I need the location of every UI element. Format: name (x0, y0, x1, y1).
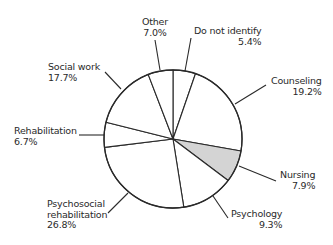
leader-psychology (213, 196, 228, 218)
pie-slices (104, 70, 242, 208)
leader-do-not-identify (185, 38, 191, 71)
leader-other (155, 40, 160, 70)
label-counseling-pct: 19.2% (271, 87, 322, 98)
label-do-not-identify-pct: 5.4% (194, 37, 261, 48)
label-counseling-name: Counseling (271, 76, 322, 87)
label-psychosocial-pct: 26.8% (47, 220, 107, 231)
label-other-name: Other (142, 17, 168, 28)
label-do-not-identify-name: Do not identify (194, 26, 261, 37)
label-social-work: Social work 17.7% (48, 62, 100, 83)
label-social-work-name: Social work (48, 62, 100, 73)
label-rehabilitation-name: Rehabilitation (14, 126, 77, 137)
label-counseling: Counseling 19.2% (271, 76, 322, 97)
label-psychosocial-rehabilitation: Psychosocial rehabilitation 26.8% (47, 199, 107, 231)
label-psychosocial-name-line1: Psychosocial (47, 199, 107, 210)
label-other: Other 7.0% (142, 17, 168, 38)
label-do-not-identify: Do not identify 5.4% (194, 26, 261, 47)
leader-social-work (105, 72, 121, 89)
label-nursing: Nursing 7.9% (280, 170, 315, 191)
leader-nursing (239, 166, 276, 181)
label-rehabilitation: Rehabilitation 6.7% (14, 126, 77, 147)
pie-slice-psychosocial-rehabilitation (105, 139, 184, 208)
label-social-work-pct: 17.7% (48, 73, 100, 84)
label-rehabilitation-pct: 6.7% (14, 137, 77, 148)
label-nursing-name: Nursing (280, 170, 315, 181)
label-psychology: Psychology 9.3% (231, 209, 282, 230)
leader-psychosocial (108, 193, 128, 213)
label-psychology-pct: 9.3% (231, 220, 282, 231)
label-psychology-name: Psychology (231, 209, 282, 220)
label-other-pct: 7.0% (142, 28, 168, 39)
label-nursing-pct: 7.9% (280, 181, 315, 192)
leader-counseling (235, 85, 266, 104)
